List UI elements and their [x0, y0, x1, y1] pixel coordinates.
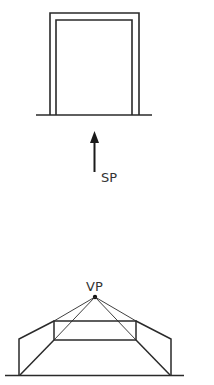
outer-frame: [50, 13, 139, 115]
vanishing-point-label: VP: [86, 279, 103, 294]
perspective-diagram: SP VP: [0, 0, 214, 385]
right-floor-edge: [136, 340, 170, 375]
left-wall: [19, 321, 54, 375]
station-point-label: SP: [101, 170, 117, 185]
vp-line-right-top: [95, 297, 136, 321]
door-frame-figure: [36, 13, 152, 115]
back-wall: [54, 321, 136, 340]
inner-frame: [56, 20, 132, 115]
perspective-figure: [5, 297, 184, 376]
arrow-head-icon: [90, 131, 99, 143]
left-floor-edge: [20, 340, 54, 375]
vp-line-left-bottom: [54, 297, 95, 340]
station-point-arrow: [90, 131, 99, 172]
vp-line-left-top: [54, 297, 95, 321]
vp-line-right-bottom: [95, 297, 136, 340]
right-wall: [136, 321, 171, 375]
